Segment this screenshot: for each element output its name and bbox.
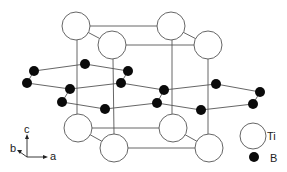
ti-atom	[100, 134, 128, 162]
b-atom	[116, 78, 126, 88]
b-atom	[123, 66, 133, 76]
ti-atom	[62, 12, 90, 40]
legend-ti-label: Ti	[267, 130, 276, 142]
legend-b-icon	[249, 152, 259, 162]
ti-atom	[64, 114, 92, 142]
b-atom	[22, 78, 32, 88]
legend-ti-icon	[240, 123, 266, 149]
b-atom	[196, 105, 206, 115]
bonds	[27, 26, 260, 148]
b-atom	[211, 79, 221, 89]
b-atom	[29, 66, 39, 76]
b-atom	[152, 98, 162, 108]
ti-atom	[159, 114, 187, 142]
axis-b-label: b	[10, 142, 16, 154]
ti-atom	[157, 12, 185, 40]
axes-indicator	[17, 134, 48, 159]
b-atom	[255, 87, 265, 97]
legend: Ti B	[240, 123, 277, 164]
b-atom	[57, 97, 67, 107]
b-atom	[159, 85, 169, 95]
legend-b-label: B	[270, 152, 277, 164]
b-atom	[65, 84, 75, 94]
ti-atom	[194, 31, 222, 59]
b-atom	[248, 99, 258, 109]
axis-c-label: c	[24, 123, 30, 135]
b-atom	[80, 59, 90, 69]
ti-atom	[98, 31, 126, 59]
b-atom	[100, 104, 110, 114]
tib2-crystal-structure-diagram: c a b Ti B	[0, 0, 287, 172]
ti-atom	[195, 134, 223, 162]
axis-a-label: a	[50, 150, 57, 162]
